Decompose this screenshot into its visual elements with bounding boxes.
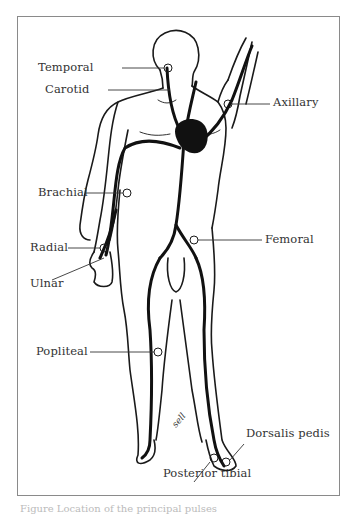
label-brachial: Brachial xyxy=(38,187,88,199)
label-ulnar: Ulnar xyxy=(30,278,64,290)
artery-aorta xyxy=(160,140,184,258)
head-outline xyxy=(153,31,199,86)
label-axillary: Axillary xyxy=(273,97,318,109)
artery-carotid xyxy=(167,68,180,130)
pulse-point-popliteal xyxy=(154,348,162,356)
label-dorsalis-pedis: Dorsalis pedis xyxy=(246,428,330,440)
figure-caption: Figure Location of the principal pulses xyxy=(20,503,217,514)
label-temporal: Temporal xyxy=(38,62,94,74)
label-carotid: Carotid xyxy=(45,84,89,96)
pulse-point-femoral xyxy=(190,236,198,244)
label-femoral: Femoral xyxy=(265,234,314,246)
label-radial: Radial xyxy=(30,242,68,254)
pulse-point-brachial xyxy=(123,189,131,197)
artist-signature: sell xyxy=(170,411,188,430)
label-popliteal: Popliteal xyxy=(36,346,88,358)
leader-dorsalis-pedis xyxy=(230,444,244,460)
left-arm-outer xyxy=(94,102,118,252)
label-posterior-tibial: Posterior tibial xyxy=(163,468,251,480)
groin xyxy=(167,258,184,292)
